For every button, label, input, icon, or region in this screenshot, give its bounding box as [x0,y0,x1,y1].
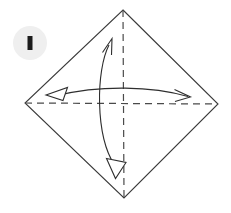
vertical-arrow-curve [100,45,115,165]
horizontal-arrow-curve [57,88,188,96]
diagram-canvas [0,0,231,213]
horizontal-double-arrow [46,88,191,102]
step-marker [13,26,47,60]
origami-figure [0,0,231,213]
vertical-arrow-bottom-head-icon [107,159,127,179]
horizontal-crease-line [25,103,218,104]
vertical-double-arrow [100,39,126,179]
horizontal-arrow-left-head-icon [46,88,68,101]
vertical-arrow-top-head-icon [103,39,113,56]
step-marker-bar-icon [28,36,33,50]
